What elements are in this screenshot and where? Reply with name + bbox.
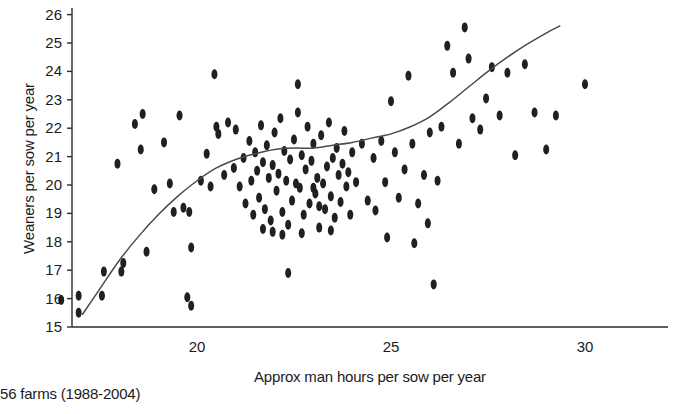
data-point (268, 216, 274, 226)
data-point (287, 154, 293, 164)
data-point (221, 170, 227, 180)
data-point (328, 191, 334, 201)
data-point (250, 210, 256, 220)
y-tick-label: 23 (28, 92, 62, 107)
data-point (477, 125, 483, 135)
y-tick-label: 22 (28, 120, 62, 135)
data-point (120, 258, 126, 268)
data-point (188, 242, 194, 252)
data-point (392, 147, 398, 157)
data-point (188, 301, 194, 311)
data-point (314, 173, 320, 183)
data-point (310, 183, 316, 193)
y-axis-tick-marks (67, 15, 72, 327)
data-point (431, 279, 437, 289)
data-point (372, 206, 378, 216)
y-tick-label: 26 (28, 7, 62, 22)
data-point (438, 122, 444, 132)
data-point (345, 167, 351, 177)
x-tick-label: 30 (565, 339, 605, 354)
data-point (324, 162, 330, 172)
data-point (402, 164, 408, 174)
data-point (378, 136, 384, 146)
data-point (186, 207, 192, 217)
data-point (297, 183, 303, 193)
data-point-group (58, 22, 588, 317)
data-point (353, 177, 359, 187)
data-point (260, 224, 266, 234)
scatter-plot-figure: Weaners per sow per year 151617181920212… (0, 0, 673, 414)
data-point (336, 170, 342, 180)
x-axis-title: Approx man hours per sow per year (180, 368, 560, 385)
data-point (341, 126, 347, 136)
data-point (171, 207, 177, 217)
data-point (340, 159, 346, 169)
data-point (405, 71, 411, 81)
data-point (208, 181, 214, 191)
data-point (320, 179, 326, 189)
data-point (277, 113, 283, 123)
data-point (252, 147, 258, 157)
data-point (462, 22, 468, 32)
data-point (231, 163, 237, 173)
data-point (303, 164, 309, 174)
data-point (299, 150, 305, 160)
data-point (444, 41, 450, 51)
data-point (256, 193, 262, 203)
data-point (308, 156, 314, 166)
data-point (138, 145, 144, 155)
data-point (76, 291, 82, 301)
data-point (225, 118, 231, 128)
figure-caption: 56 farms (1988-2004) (0, 385, 140, 402)
y-tick-label: 21 (28, 149, 62, 164)
y-tick-label: 15 (28, 319, 62, 334)
data-point (272, 127, 278, 137)
y-tick-label: 19 (28, 205, 62, 220)
data-point (270, 227, 276, 237)
y-tick-label: 18 (28, 234, 62, 249)
data-point (151, 184, 157, 194)
data-point (140, 109, 146, 119)
data-point (305, 122, 311, 132)
data-point (435, 176, 441, 186)
y-tick-label: 25 (28, 35, 62, 50)
axes-group (67, 8, 668, 327)
data-point (254, 166, 260, 176)
data-point (248, 176, 254, 186)
data-point (582, 79, 588, 89)
data-point (258, 120, 264, 130)
x-tick-label: 25 (371, 339, 411, 354)
trend-line (83, 26, 560, 314)
data-point (456, 139, 462, 149)
data-point (553, 110, 559, 120)
data-point (289, 196, 295, 206)
data-point (349, 147, 355, 157)
data-point (275, 169, 281, 179)
data-point (274, 186, 280, 196)
data-point (365, 196, 371, 206)
data-point (233, 125, 239, 135)
data-point (338, 197, 344, 207)
data-point (264, 140, 270, 150)
data-point (281, 146, 287, 156)
y-tick-label: 16 (28, 291, 62, 306)
data-point (532, 108, 538, 118)
data-point (295, 79, 301, 89)
data-point (132, 119, 138, 129)
data-point (279, 207, 285, 217)
data-point (384, 233, 390, 243)
data-point (425, 218, 431, 228)
data-point (279, 230, 285, 240)
data-point (204, 149, 210, 159)
data-point (371, 153, 377, 163)
data-point (307, 198, 313, 208)
data-point (497, 110, 503, 120)
data-point (483, 93, 489, 103)
data-point (326, 118, 332, 128)
data-point (543, 145, 549, 155)
data-point (411, 238, 417, 248)
data-point (285, 220, 291, 230)
data-point (415, 198, 421, 208)
data-point (382, 177, 388, 187)
data-point (99, 291, 105, 301)
